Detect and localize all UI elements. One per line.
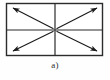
diagram-area xyxy=(0,0,110,60)
figure-container: a) xyxy=(0,0,110,80)
quadrant-arrow-diagram xyxy=(0,0,110,60)
figure-caption: a) xyxy=(0,59,110,71)
